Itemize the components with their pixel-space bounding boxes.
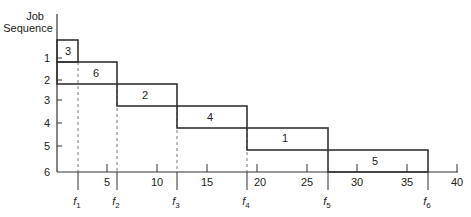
x-tick-label: 20 — [254, 176, 266, 188]
job-label: 5 — [372, 155, 378, 167]
y-tick-label: 4 — [44, 117, 50, 129]
job-label: 3 — [65, 45, 71, 57]
y-tick-label: 5 — [44, 140, 50, 152]
y-tick-label: 3 — [44, 94, 50, 106]
x-tick-label: 10 — [151, 176, 163, 188]
x-tick-label: 35 — [401, 176, 413, 188]
y-tick-label: 6 — [44, 166, 50, 178]
x-tick-label: 25 — [301, 176, 313, 188]
job-bars — [57, 40, 428, 172]
job-label: 6 — [93, 67, 99, 79]
x-ticks: 5 10 15 20 25 30 35 40 — [104, 164, 463, 188]
job-bar-6 — [57, 62, 117, 84]
x-tick-label: 30 — [351, 176, 363, 188]
finish-marker-f6: f6 — [423, 195, 431, 210]
finish-dashed-lines — [78, 62, 247, 172]
job-label: 2 — [142, 89, 148, 101]
y-tick-label: 2 — [44, 74, 50, 86]
job-sequence-gantt-diagram: Job Sequence 1 2 3 4 5 6 5 10 15 20 25 3… — [0, 0, 471, 217]
x-tick-label: 40 — [451, 176, 463, 188]
finish-marker-f4: f4 — [242, 195, 250, 210]
job-label: 1 — [282, 132, 288, 144]
finish-marker-f5: f5 — [323, 195, 331, 210]
finish-marker-f2: f2 — [112, 195, 120, 210]
x-tick-label: 15 — [201, 176, 213, 188]
y-ticks: 1 2 3 4 5 6 — [44, 52, 62, 178]
y-axis-label-line2: Sequence — [3, 22, 53, 34]
x-tick-label: 5 — [104, 176, 110, 188]
y-tick-label: 1 — [44, 52, 50, 64]
y-axis-label-line1: Job — [26, 10, 44, 22]
job-label: 4 — [207, 111, 213, 123]
finish-marker-f1: f1 — [73, 195, 81, 210]
finish-marker-f3: f3 — [172, 195, 180, 210]
